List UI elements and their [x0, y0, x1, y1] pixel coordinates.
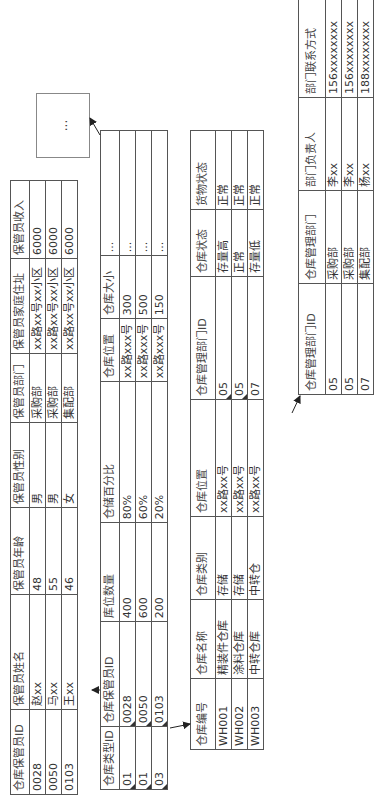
- arrow-ellipsis-link: [90, 118, 100, 135]
- relationship-arrows: [0, 0, 388, 808]
- arrow-department-link: [292, 396, 300, 413]
- arrow-warehouse-link: [170, 724, 190, 728]
- er-diagram: 仓库保管员ID 保管员姓名 保管员年龄 保管员性别 保管员部门 保管员家庭住址 …: [0, 0, 388, 808]
